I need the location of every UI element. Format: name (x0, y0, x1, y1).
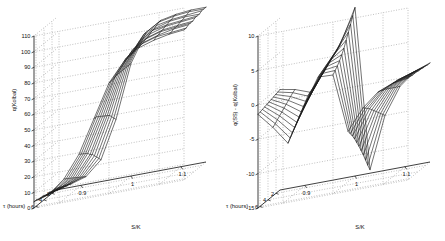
z-tick-label: -10 (246, 171, 254, 177)
figure-container: 01020304050607080901001100.911.1642S/Kτ … (0, 0, 445, 241)
surface-plot-left: 01020304050607080901001100.911.1642S/Kτ … (0, 0, 222, 241)
x-tick-label: 1 (355, 181, 358, 187)
y-tick-label: 4 (263, 197, 266, 203)
y-tick-label: 2 (47, 191, 50, 197)
x-tick-label: 1.1 (403, 171, 411, 177)
x-axis-label: S/K (355, 224, 364, 230)
z-tick-label: 80 (24, 80, 30, 86)
x-tick-label: 0.9 (303, 190, 311, 196)
mesh-surface (258, 7, 430, 169)
z-tick-label: 100 (21, 49, 30, 55)
z-axis-label: q(SS) - q(Kolbal) (232, 84, 238, 126)
plot-panel-right: -15-10-505100.911.1642S/Kτ (hours)q(SS) … (222, 0, 444, 241)
y-axis-label: τ (hours) (226, 203, 248, 209)
axes-lines (32, 36, 206, 209)
z-tick-label: 10 (248, 33, 254, 39)
x-tick-label: 0.9 (79, 190, 87, 196)
y-axis-label: τ (hours) (3, 203, 25, 209)
z-tick-label: 110 (21, 33, 30, 39)
z-tick-label: 0 (251, 102, 254, 108)
y-tick-label: 4 (39, 197, 42, 203)
z-tick-label: 50 (24, 127, 30, 133)
z-tick-label: 70 (24, 96, 30, 102)
z-tick-label: 90 (24, 64, 30, 70)
axes-labels: -15-10-505100.911.1642S/Kτ (hours)q(SS) … (226, 33, 410, 230)
z-axis-label: q(Kolbal) (11, 89, 17, 112)
z-tick-label: 10 (24, 190, 30, 196)
z-tick-label: 60 (24, 111, 30, 117)
z-tick-label: 30 (24, 158, 30, 164)
x-tick-label: 1 (131, 181, 134, 187)
surface-plot-right: -15-10-505100.911.1642S/Kτ (hours)q(SS) … (222, 0, 445, 241)
y-tick-label: 6 (31, 204, 34, 210)
y-tick-label: 2 (271, 191, 274, 197)
z-tick-label: 5 (251, 68, 254, 74)
z-tick-label: 20 (24, 174, 30, 180)
plot-panel-left: 01020304050607080901001100.911.1642S/Kτ … (0, 0, 222, 241)
y-tick-label: 6 (255, 204, 258, 210)
x-axis-label: S/K (131, 224, 140, 230)
z-tick-label: 40 (24, 143, 30, 149)
x-tick-label: 1.1 (179, 171, 187, 177)
z-tick-label: -5 (249, 136, 254, 142)
